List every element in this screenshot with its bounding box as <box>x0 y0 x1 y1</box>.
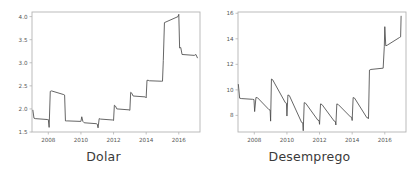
xtick-label-desemprego-2: 2012 <box>312 137 326 143</box>
figure-container: 1.52.02.53.03.54.020082010201220142016 D… <box>0 0 413 173</box>
plot-area-dolar: 1.52.02.53.03.54.020082010201220142016 <box>19 12 200 143</box>
data-series-desemprego-0 <box>238 16 401 131</box>
xtick-label-dolar-0: 2008 <box>41 137 56 143</box>
ytick-label-desemprego-1: 10 <box>226 87 234 93</box>
chart-xlabel-desemprego: Desemprego <box>206 149 413 164</box>
chart-panel-dolar: 1.52.02.53.03.54.020082010201220142016 D… <box>0 0 207 173</box>
xtick-label-desemprego-3: 2014 <box>345 137 360 143</box>
ytick-label-dolar-1: 2.0 <box>19 106 28 112</box>
xtick-label-desemprego-1: 2010 <box>280 137 295 143</box>
plot-spines-desemprego <box>238 12 406 132</box>
ytick-label-dolar-0: 1.5 <box>19 129 28 135</box>
chart-svg-dolar: 1.52.02.53.03.54.020082010201220142016 <box>0 0 207 148</box>
ytick-label-desemprego-0: 8 <box>230 112 234 118</box>
xtick-label-dolar-3: 2014 <box>139 137 154 143</box>
chart-panel-desemprego: 81012141620082010201220142016 Desemprego <box>206 0 413 173</box>
data-series-dolar-0 <box>33 14 198 128</box>
ytick-label-desemprego-4: 16 <box>226 10 234 16</box>
plot-spines-dolar <box>32 12 200 132</box>
xtick-label-dolar-1: 2010 <box>74 137 89 143</box>
ytick-label-desemprego-3: 14 <box>226 36 234 42</box>
plot-area-desemprego: 81012141620082010201220142016 <box>226 10 406 142</box>
ytick-label-dolar-3: 3.0 <box>19 60 28 66</box>
ytick-label-desemprego-2: 12 <box>226 61 233 67</box>
chart-svg-desemprego: 81012141620082010201220142016 <box>206 0 413 148</box>
xtick-label-dolar-2: 2012 <box>106 137 120 143</box>
chart-xlabel-dolar: Dolar <box>0 149 207 164</box>
xtick-label-desemprego-4: 2016 <box>378 137 393 143</box>
xtick-label-dolar-4: 2016 <box>172 137 187 143</box>
xtick-label-desemprego-0: 2008 <box>247 137 262 143</box>
ytick-label-dolar-4: 3.5 <box>19 37 28 43</box>
ytick-label-dolar-5: 4.0 <box>19 14 28 20</box>
ytick-label-dolar-2: 2.5 <box>19 83 28 89</box>
